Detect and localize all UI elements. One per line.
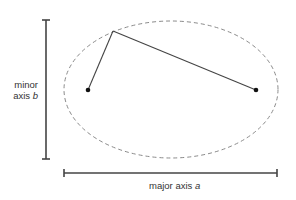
minor-axis-variable: b xyxy=(33,90,38,101)
left-focus-dot xyxy=(86,88,91,93)
major-axis-label: major axis a xyxy=(149,180,200,191)
minor-axis-label: minor axis b xyxy=(0,79,38,101)
right-focus-dot xyxy=(254,88,259,93)
right-focus-to-point-line xyxy=(113,31,256,90)
ellipse-outline xyxy=(64,21,278,158)
major-axis-variable: a xyxy=(195,180,200,191)
ellipse-diagram xyxy=(0,0,296,200)
minor-axis-label-line1: minor xyxy=(0,79,38,90)
major-axis-bar xyxy=(64,169,277,177)
left-focus-to-point-line xyxy=(88,31,113,90)
minor-axis-bar xyxy=(42,20,50,159)
minor-axis-label-line2: axis b xyxy=(0,90,38,101)
